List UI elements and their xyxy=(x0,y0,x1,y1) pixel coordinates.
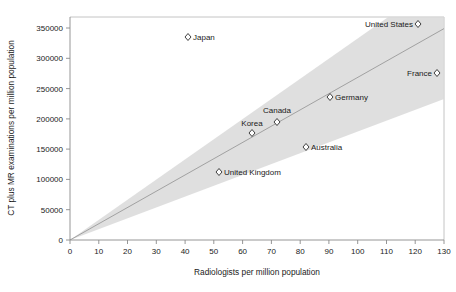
point-label: Korea xyxy=(241,119,263,128)
y-axis-ticks xyxy=(66,28,70,240)
y-tick-label: 0 xyxy=(59,236,64,245)
x-tick-label: 100 xyxy=(351,247,365,256)
y-tick-label: 150000 xyxy=(36,145,63,154)
x-tick-label: 40 xyxy=(181,247,190,256)
x-tick-label: 70 xyxy=(267,247,276,256)
data-point-united-states[interactable]: United States xyxy=(365,20,421,29)
point-label: United Kingdom xyxy=(224,168,281,177)
data-point-united-kingdom[interactable]: United Kingdom xyxy=(216,168,281,177)
x-tick-label: 80 xyxy=(296,247,305,256)
y-tick-label: 350000 xyxy=(36,24,63,33)
x-tick-label: 30 xyxy=(152,247,161,256)
point-label: France xyxy=(407,69,432,78)
y-axis-tick-labels: 0 50000 100000 150000 200000 250000 3000… xyxy=(36,24,63,245)
y-tick-label: 200000 xyxy=(36,115,63,124)
x-tick-label: 90 xyxy=(324,247,333,256)
trend-line xyxy=(70,29,444,240)
x-tick-label: 130 xyxy=(437,247,451,256)
point-label: Germany xyxy=(335,93,368,102)
x-tick-label: 10 xyxy=(94,247,103,256)
data-point-japan[interactable]: Japan xyxy=(185,33,215,42)
point-label: Japan xyxy=(193,33,215,42)
y-tick-label: 100000 xyxy=(36,175,63,184)
y-axis-title: CT plus MR examinations per million popu… xyxy=(6,40,16,216)
x-axis-tick-labels: 0 10 20 30 40 50 60 70 80 90 100 110 120… xyxy=(68,247,451,256)
chart-canvas: 0 50000 100000 150000 200000 250000 3000… xyxy=(0,0,456,292)
scatter-chart: 0 50000 100000 150000 200000 250000 3000… xyxy=(0,0,456,292)
x-axis-ticks xyxy=(70,240,444,244)
y-tick-label: 300000 xyxy=(36,54,63,63)
point-label: United States xyxy=(365,20,413,29)
point-label: Canada xyxy=(263,106,292,115)
x-axis-title: Radiologists per million population xyxy=(194,267,320,277)
x-tick-label: 60 xyxy=(238,247,247,256)
y-tick-label: 50000 xyxy=(41,206,64,215)
x-tick-label: 120 xyxy=(409,247,423,256)
point-label: Australia xyxy=(311,143,343,152)
x-tick-label: 0 xyxy=(68,247,73,256)
y-tick-label: 250000 xyxy=(36,85,63,94)
x-tick-label: 50 xyxy=(209,247,218,256)
x-tick-label: 110 xyxy=(380,247,393,256)
x-tick-label: 20 xyxy=(123,247,132,256)
